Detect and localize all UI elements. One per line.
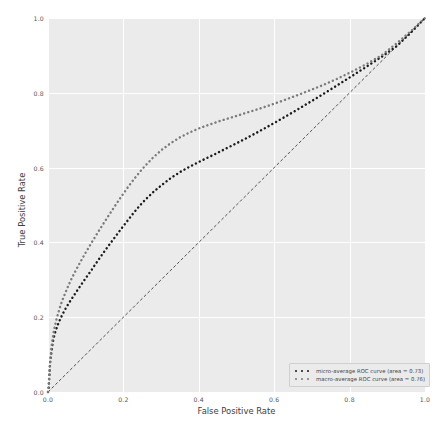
x-tick-label: 0.0 [43, 396, 53, 403]
y-axis-label: True Positive Rate [17, 110, 27, 310]
y-tick-label: 0.0 [34, 389, 44, 396]
legend-item: micro-average ROC curve (area = 0.73) [293, 367, 425, 375]
legend-dot-icon [295, 378, 297, 380]
y-tick-label: 0.2 [34, 314, 44, 321]
y-tick-label: 1.0 [34, 15, 44, 22]
y-tick-label: 0.6 [34, 164, 44, 171]
legend-dot-icon [301, 378, 303, 380]
legend-item: macro-average ROC curve (area = 0.76) [293, 375, 425, 383]
gridline-vertical [425, 18, 426, 392]
legend-label: macro-average ROC curve (area = 0.76) [316, 376, 425, 382]
gridline-horizontal [48, 392, 425, 393]
x-tick-label: 0.4 [194, 396, 204, 403]
y-tick-label: 0.8 [34, 89, 44, 96]
x-tick-label: 1.0 [420, 396, 430, 403]
x-tick-label: 0.6 [269, 396, 279, 403]
legend-dot-icon [295, 370, 297, 372]
plot-area [48, 18, 425, 392]
x-tick-label: 0.2 [118, 396, 128, 403]
roc-chart-figure: 0.00.20.40.60.81.0 0.00.20.40.60.81.0 Fa… [0, 0, 448, 438]
legend-swatch-icon [293, 367, 313, 375]
chart-legend: micro-average ROC curve (area = 0.73)mac… [289, 363, 430, 387]
legend-dot-icon [301, 370, 303, 372]
legend-swatch-icon [293, 375, 313, 383]
legend-label: micro-average ROC curve (area = 0.73) [316, 368, 423, 374]
y-tick-label: 0.4 [34, 239, 44, 246]
roc-curves [48, 18, 425, 392]
x-tick-label: 0.8 [344, 396, 354, 403]
legend-dot-icon [307, 370, 309, 372]
x-axis-label: False Positive Rate [48, 406, 425, 416]
legend-dot-icon [307, 378, 309, 380]
chance-diagonal-line [48, 18, 425, 392]
